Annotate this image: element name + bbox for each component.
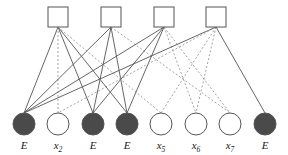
variable-node-label-v2: x2 — [53, 139, 63, 154]
variable-node-subscript-v5: 5 — [162, 145, 166, 154]
variable-nodes-layer — [13, 113, 276, 135]
variable-node-v6[interactable] — [185, 113, 207, 135]
variable-node-subscript-v7: 7 — [231, 145, 235, 154]
check-node-c1[interactable] — [48, 7, 68, 27]
variable-node-subscript-v6: 6 — [197, 145, 201, 154]
variable-node-label-v5: x5 — [156, 139, 166, 154]
variable-node-v7[interactable] — [219, 113, 241, 135]
variable-node-subscript-v2: 2 — [59, 145, 63, 154]
variable-node-v2[interactable] — [47, 113, 69, 135]
variable-node-label-v3: E — [89, 139, 97, 151]
graph-canvas: Ex2EEx5x6x7E — [0, 0, 288, 155]
graph-edge — [93, 27, 111, 113]
graph-edge — [164, 27, 230, 113]
graph-edge — [58, 27, 93, 113]
variable-node-v4[interactable] — [116, 113, 138, 135]
check-nodes-layer — [48, 7, 226, 27]
graph-edge — [127, 27, 164, 113]
check-node-c4[interactable] — [206, 7, 226, 27]
variable-node-label-v8: E — [261, 139, 269, 151]
variable-node-label-v7: x7 — [225, 139, 235, 154]
tanner-graph-diagram: Ex2EEx5x6x7E — [0, 0, 288, 155]
graph-edge — [216, 27, 265, 113]
variable-node-label-v4: E — [123, 139, 131, 151]
graph-edge — [58, 27, 127, 113]
variable-node-v8[interactable] — [254, 113, 276, 135]
check-node-c3[interactable] — [154, 7, 174, 27]
edges-layer — [24, 27, 265, 113]
graph-edge — [24, 27, 164, 113]
graph-edge — [24, 27, 111, 113]
variable-node-v3[interactable] — [82, 113, 104, 135]
variable-node-v5[interactable] — [150, 113, 172, 135]
variable-node-label-v1: E — [20, 139, 28, 151]
variable-node-v1[interactable] — [13, 113, 35, 135]
check-node-c2[interactable] — [101, 7, 121, 27]
graph-edge — [58, 27, 216, 113]
graph-edge — [164, 27, 196, 113]
variable-node-label-v6: x6 — [191, 139, 201, 154]
labels-layer: Ex2EEx5x6x7E — [20, 139, 269, 154]
graph-edge — [196, 27, 216, 113]
